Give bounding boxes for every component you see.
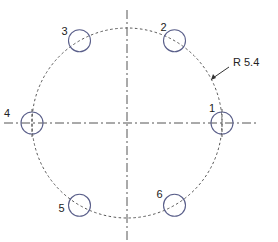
hole-5	[69, 194, 91, 216]
hole-label-4: 4	[4, 108, 10, 119]
radius-leader-line	[213, 67, 229, 78]
hole-label-3: 3	[62, 26, 68, 37]
radius-arrowhead-icon	[211, 74, 216, 80]
hole-label-6: 6	[157, 189, 163, 200]
radius-dimension-label: R 5.4	[233, 57, 259, 68]
hole-label-5: 5	[59, 203, 65, 214]
bolt-circle-diagram: 123456 R 5.4	[0, 0, 278, 242]
hole-label-1: 1	[209, 103, 215, 114]
hole-6	[164, 194, 186, 216]
hole-label-2: 2	[161, 22, 167, 33]
diagram-svg	[0, 0, 278, 242]
